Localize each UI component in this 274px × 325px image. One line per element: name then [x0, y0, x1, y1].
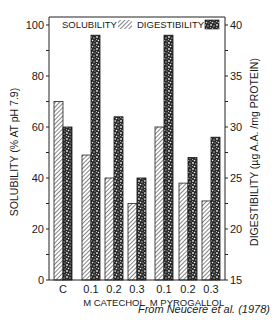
left-tick-label: 40 [32, 172, 44, 184]
group-label-catechol: M CATECHOL [83, 297, 145, 308]
category-label: 0.3 [203, 283, 218, 295]
category-label: 0.2 [106, 283, 121, 295]
left-tick-label: 20 [32, 223, 44, 235]
bar-digestibility [63, 127, 72, 280]
legend-hatched-swatch [118, 20, 132, 29]
category-label: 0.2 [180, 283, 195, 295]
bar-solubility [128, 204, 137, 281]
right-tick-label: 40 [230, 19, 242, 31]
legend-stippled-swatch [205, 20, 219, 29]
bar-digestibility [188, 158, 197, 280]
bar-digestibility [91, 35, 100, 280]
left-axis-label: SOLUBILITY (% AT pH 7.9) [8, 88, 20, 216]
legend: SOLUBILITYDIGESTIBILITY [62, 19, 219, 30]
right-tick-label: 20 [230, 223, 242, 235]
left-tick-label: 80 [32, 70, 44, 82]
left-tick-label: 100 [26, 19, 44, 31]
right-tick-label: 15 [230, 274, 242, 286]
bar-digestibility [164, 35, 173, 280]
right-axis-label: DIGESTIBILITY (µg A.A. /mg PROTEIN) [248, 58, 260, 246]
left-tick-label: 0 [38, 274, 44, 286]
bar-solubility [202, 201, 211, 280]
source-credit: From Neucere et al. (1978) [138, 303, 270, 315]
bar-solubility [105, 178, 114, 280]
right-tick-label: 30 [230, 121, 242, 133]
bar-digestibility [211, 137, 220, 280]
category-label: 0.1 [156, 283, 171, 295]
category-label: 0.3 [129, 283, 144, 295]
bar-solubility [82, 155, 91, 280]
legend-digestibility-label: DIGESTIBILITY [137, 19, 205, 30]
category-label: C [59, 283, 67, 295]
right-tick-label: 35 [230, 70, 242, 82]
category-label: 0.1 [83, 283, 98, 295]
bar-solubility [155, 127, 164, 280]
right-tick-label: 25 [230, 172, 242, 184]
bar-digestibility [137, 178, 146, 280]
left-tick-label: 60 [32, 121, 44, 133]
bar-solubility [54, 102, 63, 281]
legend-solubility-label: SOLUBILITY [62, 19, 118, 30]
plot-area [54, 35, 220, 280]
bar-digestibility [114, 117, 123, 280]
bar-solubility [179, 183, 188, 280]
bar-chart: 020406080100152025303540SOLUBILITY (% AT… [0, 0, 274, 325]
